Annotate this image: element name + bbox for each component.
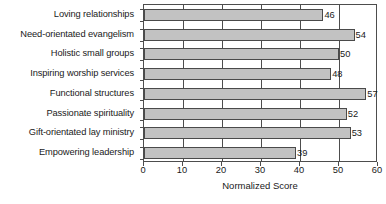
- bar-row: 52: [144, 108, 376, 120]
- y-axis-tick: [140, 60, 144, 61]
- x-axis-title: Normalized Score: [143, 180, 377, 191]
- y-axis-tick: [140, 9, 144, 10]
- bar-value-label: 52: [348, 109, 358, 119]
- y-axis-tick: [140, 68, 144, 69]
- bar-row: 53: [144, 127, 376, 139]
- y-axis-tick: [140, 88, 144, 89]
- x-axis-tick-labels: 0102030405060: [143, 165, 377, 177]
- category-label: Functional structures: [0, 88, 138, 98]
- y-axis-tick: [140, 108, 144, 109]
- bar-value-label: 50: [340, 49, 350, 59]
- y-axis-tick: [140, 80, 144, 81]
- plot-inner: 4654504857525339: [144, 5, 376, 161]
- bar: 57: [144, 88, 366, 100]
- y-axis-tick: [140, 41, 144, 42]
- category-label: Gift-orientated lay ministry: [0, 127, 138, 137]
- y-axis-tick: [140, 147, 144, 148]
- bar: 48: [144, 68, 331, 80]
- bar-row: 50: [144, 48, 376, 60]
- bar-row: 48: [144, 68, 376, 80]
- bar-value-label: 57: [367, 89, 377, 99]
- y-axis-tick: [140, 100, 144, 101]
- bar-value-label: 53: [352, 128, 362, 138]
- bar-row: 46: [144, 9, 376, 21]
- x-axis-tick-label: 10: [177, 165, 187, 176]
- x-axis-tick-label: 30: [255, 165, 265, 176]
- category-label: Need-orientated evangelism: [0, 29, 138, 39]
- y-axis-tick: [140, 127, 144, 128]
- bar-value-label: 48: [332, 69, 342, 79]
- category-label: Passionate spirituality: [0, 108, 138, 118]
- category-label: Inspiring worship services: [0, 68, 138, 78]
- category-axis-labels: Loving relationshipsNeed-orientated evan…: [0, 4, 138, 162]
- bar-row: 54: [144, 29, 376, 41]
- y-axis-tick: [140, 29, 144, 30]
- bar-value-label: 54: [356, 30, 366, 40]
- bar: 39: [144, 147, 296, 159]
- category-label: Empowering leadership: [0, 147, 138, 157]
- x-axis-tick-label: 0: [140, 165, 145, 176]
- bar: 46: [144, 9, 323, 21]
- bar: 50: [144, 48, 339, 60]
- bar: 52: [144, 108, 347, 120]
- y-axis-tick: [140, 159, 144, 160]
- category-label: Holistic small groups: [0, 48, 138, 58]
- bar: 53: [144, 127, 351, 139]
- x-axis-tick-label: 40: [294, 165, 304, 176]
- category-label: Loving relationships: [0, 9, 138, 19]
- bar: 54: [144, 29, 355, 41]
- bar-chart: Loving relationshipsNeed-orientated evan…: [0, 0, 386, 204]
- x-axis-tick-label: 60: [372, 165, 382, 176]
- y-axis-tick: [140, 120, 144, 121]
- x-axis-tick-label: 50: [333, 165, 343, 176]
- bar-row: 39: [144, 147, 376, 159]
- bar-value-label: 46: [324, 10, 334, 20]
- y-axis-tick: [140, 48, 144, 49]
- x-axis-tick-label: 20: [216, 165, 226, 176]
- bar-row: 57: [144, 88, 376, 100]
- bar-value-label: 39: [297, 148, 307, 158]
- plot-area: 4654504857525339: [143, 4, 377, 162]
- y-axis-tick: [140, 139, 144, 140]
- y-axis-tick: [140, 21, 144, 22]
